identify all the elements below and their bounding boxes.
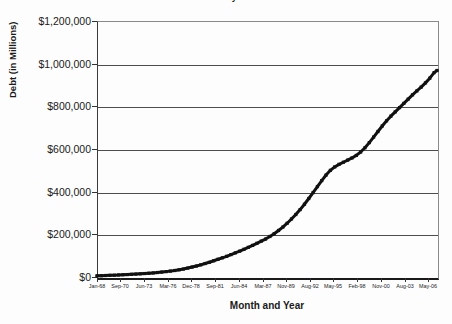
data-point-marker [156,271,159,274]
data-point-marker [398,106,401,109]
x-axis-title: Month and Year [97,300,437,311]
data-point-marker [316,185,319,188]
x-axis-tick-mark [97,278,98,282]
data-point-marker [139,272,142,275]
x-axis-tick-mark [310,278,311,282]
data-point-marker [435,69,438,72]
data-point-marker [294,213,297,216]
data-point-marker [411,93,414,96]
x-axis-tick-mark [428,278,429,282]
data-point-marker [355,154,358,157]
y-axis-tick-label: $1,200,000 [38,16,91,26]
data-point-marker [363,146,366,149]
data-point-marker [147,272,150,275]
data-point-marker [281,225,284,228]
x-axis-tick-mark [286,278,287,282]
data-point-marker [178,268,181,271]
data-point-marker [303,203,306,206]
data-point-marker [277,229,280,232]
debt-line-chart: U.S. National Debt by Month and Year Deb… [0,0,452,324]
data-point-marker [186,266,189,269]
data-point-marker [221,256,224,259]
data-point-marker [320,179,323,182]
data-point-marker [238,250,241,253]
y-axis-tick-label: $1,000,000 [38,59,91,69]
y-axis-tick-label: $0 [79,272,91,282]
data-point-marker [117,273,120,276]
data-point-marker [268,235,271,238]
data-point-marker [165,270,168,273]
series-polyline [97,70,437,275]
data-point-marker [402,102,405,105]
data-point-marker [234,251,237,254]
data-point-marker [126,273,129,276]
x-axis-tick-mark [239,278,240,282]
data-point-marker [160,270,163,273]
data-point-marker [299,208,302,211]
data-point-marker [104,274,107,277]
y-axis-tick-label: $800,000 [47,101,91,111]
x-axis-tick-mark [120,278,121,282]
data-point-marker [273,232,276,235]
data-point-marker [368,141,371,144]
data-point-marker [290,217,293,220]
data-point-marker [346,158,349,161]
data-point-marker [251,244,254,247]
x-axis-tick-label: May-06 [412,283,444,289]
data-point-marker [312,191,315,194]
y-axis-tick-label: $400,000 [47,187,91,197]
data-point-marker [225,255,228,258]
x-axis-tick-mark [405,278,406,282]
data-point-marker [100,274,103,277]
series-markers [95,69,438,278]
data-point-marker [359,150,362,153]
data-point-marker [433,71,436,74]
x-axis-tick-mark [168,278,169,282]
data-point-marker [286,222,289,225]
data-point-marker [260,240,263,243]
data-point-marker [95,274,98,277]
data-point-marker [195,264,198,267]
data-point-marker [350,156,353,159]
data-point-marker [394,110,397,113]
data-point-marker [307,197,310,200]
data-point-marker [333,165,336,168]
data-point-marker [173,269,176,272]
x-axis-tick-mark [144,278,145,282]
data-point-marker [381,124,384,127]
data-series-line [97,21,437,279]
data-point-marker [424,81,427,84]
data-point-marker [212,259,215,262]
data-point-marker [121,273,124,276]
data-point-marker [199,263,202,266]
data-point-marker [329,169,332,172]
data-point-marker [134,273,137,276]
data-point-marker [385,119,388,122]
data-point-marker [182,267,185,270]
x-axis-tick-mark [357,278,358,282]
data-point-marker [229,253,232,256]
chart-title: U.S. National Debt by Month and Year [0,0,452,2]
data-point-marker [216,258,219,261]
x-axis-tick-mark [381,278,382,282]
data-point-marker [190,265,193,268]
data-point-marker [108,274,111,277]
data-point-marker [389,115,392,118]
data-point-marker [143,272,146,275]
data-point-marker [372,135,375,138]
data-point-marker [264,237,267,240]
x-axis-tick-mark [263,278,264,282]
data-point-marker [203,262,206,265]
data-point-marker [342,161,345,164]
data-point-marker [208,261,211,264]
data-point-marker [324,173,327,176]
data-point-marker [407,97,410,100]
x-axis-tick-mark [191,278,192,282]
x-axis-tick-mark [333,278,334,282]
y-axis-tick-label: $600,000 [47,144,91,154]
data-point-marker [152,271,155,274]
data-point-marker [376,130,379,133]
data-point-marker [130,273,133,276]
data-point-marker [415,89,418,92]
data-point-marker [420,86,423,89]
